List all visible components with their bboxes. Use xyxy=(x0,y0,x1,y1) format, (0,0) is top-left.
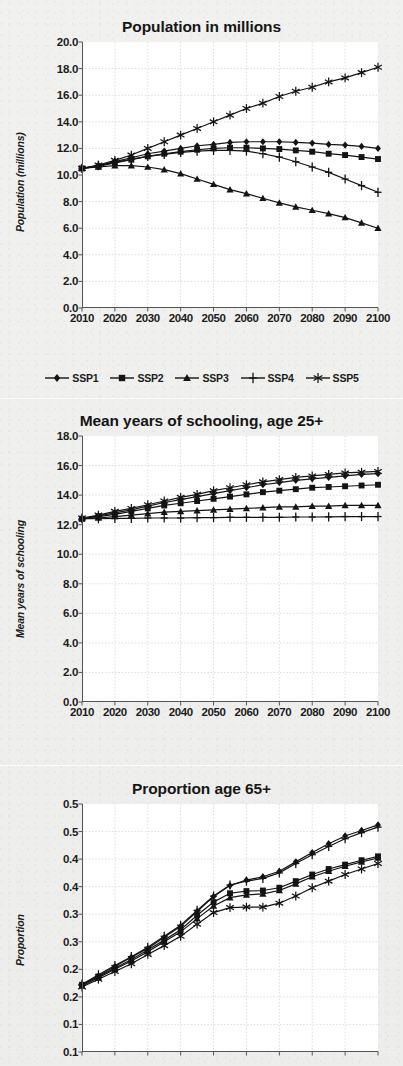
y-tick-label: 0.4 xyxy=(63,881,78,893)
y-axis-ticks-schooling: 0.02.04.06.08.010.012.014.016.018.0 xyxy=(0,436,78,702)
chart-panel-population: Population in millions Population (milli… xyxy=(0,18,403,358)
y-tick-label: 0.1 xyxy=(63,1018,78,1030)
y-tick-label: 4.0 xyxy=(63,637,78,649)
diamond-marker-icon xyxy=(326,141,332,148)
x-tick-label: 2040 xyxy=(169,312,193,324)
plus-marker-icon xyxy=(292,157,299,166)
diamond-marker-icon xyxy=(293,139,299,146)
asterisk-marker-icon xyxy=(193,124,201,133)
square-marker-icon xyxy=(375,482,381,488)
square-marker-icon xyxy=(375,156,381,162)
x-tick-label: 2100 xyxy=(366,706,390,718)
y-tick-label: 18.0 xyxy=(57,430,78,442)
legend-item-ssp1[interactable]: SSP1 xyxy=(44,371,98,385)
legend-item-ssp5[interactable]: SSP5 xyxy=(305,371,359,385)
series-SSP3 xyxy=(78,854,381,988)
asterisk-marker-icon xyxy=(305,371,331,385)
y-tick-label: 0.2 xyxy=(63,991,78,1003)
asterisk-marker-icon xyxy=(308,883,316,892)
plus-marker-icon xyxy=(374,512,381,521)
square-marker-icon xyxy=(260,489,266,495)
asterisk-marker-icon xyxy=(226,111,234,120)
asterisk-marker-icon xyxy=(325,877,333,886)
x-tick-label: 2090 xyxy=(333,312,357,324)
y-tick-label: 0.3 xyxy=(63,936,78,948)
y-tick-label: 8.0 xyxy=(63,578,78,590)
asterisk-marker-icon xyxy=(325,77,333,86)
gridlines xyxy=(82,42,378,308)
plot-area-population xyxy=(82,42,378,308)
plus-marker-icon xyxy=(226,880,233,889)
legend-label: SSP2 xyxy=(137,372,163,384)
square-marker-icon xyxy=(243,491,249,497)
y-axis-ticks-population: 0.02.04.06.08.010.012.014.016.018.020.0 xyxy=(0,42,78,308)
x-tick-label: 2020 xyxy=(103,312,127,324)
square-marker-icon xyxy=(326,484,332,490)
plus-marker-icon xyxy=(259,513,266,522)
panel-divider-2 xyxy=(0,765,403,766)
plus-marker-icon xyxy=(309,162,316,171)
series-SSP4 xyxy=(78,512,381,523)
diamond-marker-icon xyxy=(54,374,60,382)
plus-marker-icon xyxy=(325,168,332,177)
y-tick-label: 14.0 xyxy=(57,116,78,128)
plus-marker-icon xyxy=(240,371,266,385)
square-marker-icon xyxy=(276,146,282,152)
chart-canvas-population xyxy=(82,42,378,308)
series-SSP1 xyxy=(79,138,381,172)
asterisk-marker-icon xyxy=(243,104,251,113)
y-tick-label: 0.5 xyxy=(63,798,78,810)
x-tick-label: 2010 xyxy=(70,706,94,718)
chart-legend: SSP1SSP2SSP3SSP4SSP5 xyxy=(0,366,403,390)
y-tick-label: 2.0 xyxy=(63,666,78,678)
square-marker-icon xyxy=(276,488,282,494)
asterisk-marker-icon xyxy=(358,68,366,77)
square-marker-icon xyxy=(342,152,348,158)
plus-marker-icon xyxy=(276,513,283,522)
y-tick-label: 16.0 xyxy=(57,460,78,472)
y-tick-label: 4.0 xyxy=(63,249,78,261)
y-axis-ticks-proportion: 0.50.50.40.40.30.30.20.20.10.1 xyxy=(0,804,78,1052)
square-marker-icon xyxy=(359,154,365,160)
y-tick-label: 16.0 xyxy=(57,89,78,101)
x-tick-label: 2070 xyxy=(267,706,291,718)
x-tick-label: 2030 xyxy=(136,312,160,324)
plus-marker-icon xyxy=(194,513,201,522)
legend-item-ssp2[interactable]: SSP2 xyxy=(109,371,163,385)
plus-marker-icon xyxy=(226,513,233,522)
y-tick-label: 0.5 xyxy=(63,826,78,838)
y-tick-label: 10.0 xyxy=(57,169,78,181)
y-tick-label: 6.0 xyxy=(63,222,78,234)
y-tick-label: 12.0 xyxy=(57,519,78,531)
legend-item-ssp4[interactable]: SSP4 xyxy=(240,371,294,385)
series-SSP5 xyxy=(78,63,382,173)
legend-label: SSP1 xyxy=(72,372,98,384)
asterisk-marker-icon xyxy=(259,99,267,108)
legend-item-ssp3[interactable]: SSP3 xyxy=(174,371,228,385)
diamond-marker-icon xyxy=(260,138,266,145)
y-tick-label: 14.0 xyxy=(57,489,78,501)
asterisk-marker-icon xyxy=(160,137,168,146)
y-tick-label: 10.0 xyxy=(57,548,78,560)
square-marker-icon xyxy=(227,494,233,500)
triangle-marker-icon xyxy=(174,371,200,385)
y-tick-label: 0.1 xyxy=(63,1046,78,1058)
chart-title-population: Population in millions xyxy=(0,18,403,36)
plus-marker-icon xyxy=(259,874,266,883)
plus-marker-icon xyxy=(292,512,299,521)
legend-label: SSP5 xyxy=(333,372,359,384)
x-tick-label: 2080 xyxy=(300,312,324,324)
square-marker-icon xyxy=(342,483,348,489)
y-tick-label: 20.0 xyxy=(57,36,78,48)
y-tick-label: 12.0 xyxy=(57,142,78,154)
square-marker-icon xyxy=(326,151,332,157)
plus-marker-icon xyxy=(243,877,250,886)
chart-title-schooling: Mean years of schooling, age 25+ xyxy=(0,412,403,430)
x-tick-label: 2010 xyxy=(70,312,94,324)
plus-marker-icon xyxy=(243,513,250,522)
chart-title-proportion: Proportion age 65+ xyxy=(0,780,403,798)
x-tick-label: 2090 xyxy=(333,706,357,718)
asterisk-marker-icon xyxy=(341,870,349,879)
x-tick-label: 2060 xyxy=(234,312,258,324)
asterisk-marker-icon xyxy=(292,892,300,901)
